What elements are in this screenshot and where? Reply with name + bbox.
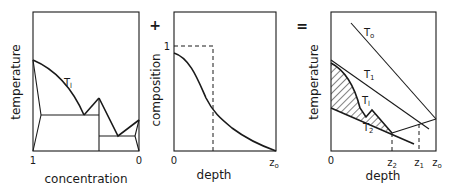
y-axis-title-temperature: temperature [9, 44, 23, 119]
composition-frame [174, 12, 276, 151]
plus-operator: + [149, 17, 161, 33]
x-tick-1: 1 [30, 155, 36, 166]
y-axis-title-temperature: temperature [307, 44, 321, 119]
liquidus-rise-to-compound [84, 98, 99, 115]
y-axis-title-composition: composition [149, 53, 163, 126]
x-tick-z0: zo [432, 157, 442, 170]
Tl-label: Tl [361, 95, 370, 108]
x-tick-0: 0 [136, 155, 142, 166]
T1-label: T1 [363, 69, 375, 82]
x-axis-title-depth: depth [366, 169, 401, 183]
y-tick-1: 1 [164, 41, 170, 52]
solidus-right [135, 120, 139, 151]
diffusion-profile-curve [174, 53, 276, 151]
diagram-canvas: Tl 1 0 concentration temperature + 1 0 z… [0, 0, 455, 191]
x-tick-z1: z1 [414, 157, 424, 170]
liquidus-curve-right [99, 98, 139, 136]
phase-diagram-frame [33, 12, 139, 151]
phase-diagram-panel: Tl 1 0 concentration temperature [9, 12, 142, 186]
liquidus-curve-left [33, 60, 84, 115]
temperature-depth-panel: To T1 Tl T2 0 z2 z1 zo depth temperature [307, 12, 442, 183]
x-tick-z0: zo [269, 157, 279, 170]
x-tick-0: 0 [171, 155, 177, 166]
solidus-left [33, 60, 41, 151]
x-axis-title-depth: depth [197, 168, 232, 182]
x-axis-title-concentration: concentration [44, 172, 127, 186]
x-tick-0: 0 [328, 155, 334, 166]
composition-profile-panel: 1 0 zo depth composition [149, 12, 279, 182]
interface-line [392, 119, 436, 133]
equals-operator: = [296, 18, 308, 34]
